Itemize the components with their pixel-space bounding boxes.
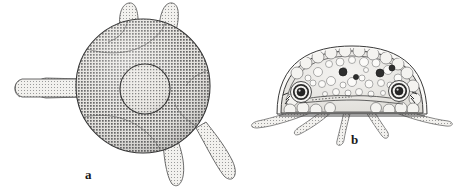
figure-b bbox=[251, 45, 452, 145]
illustration-canvas bbox=[0, 0, 454, 192]
tentacle-left bbox=[15, 78, 82, 98]
figure-a bbox=[15, 3, 236, 186]
figure-a-body bbox=[76, 19, 210, 153]
figure-label-b: b bbox=[351, 133, 358, 146]
figure-plate: a b bbox=[0, 0, 454, 192]
tentacle-bottom-right bbox=[196, 122, 235, 179]
central-disc bbox=[120, 64, 170, 114]
figure-label-a: a bbox=[85, 168, 92, 181]
